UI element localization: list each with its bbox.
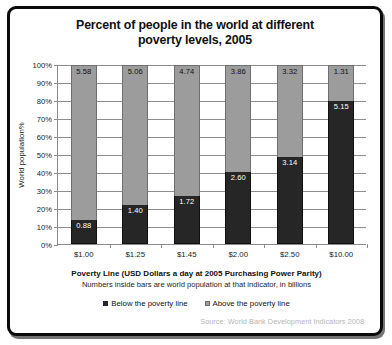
chart-title: Percent of people in the world at differ… [24, 18, 366, 48]
bar-stack[interactable]: 5.580.88 [71, 65, 97, 244]
bar-value-label-above: 3.32 [278, 67, 302, 76]
gridline [58, 209, 366, 210]
bar-segment-above-poverty-line[interactable]: 5.06 [122, 65, 148, 205]
bar-value-label-below: 1.40 [123, 206, 147, 215]
chart-card-frame: Percent of people in the world at differ… [7, 6, 383, 336]
chart-source: Source: World Bank Development Indicator… [200, 317, 364, 326]
x-axis-tick-mark [316, 244, 317, 248]
y-axis-tick-mark [54, 83, 58, 84]
bar-segment-above-poverty-line[interactable]: 3.32 [277, 65, 303, 157]
gridline [58, 137, 366, 138]
gridline [58, 119, 366, 120]
bar-value-label-below: 3.14 [278, 158, 302, 167]
y-axis-tick-label: 40% [37, 169, 52, 178]
y-axis-tick-mark [54, 155, 58, 156]
bar-segment-below-poverty-line[interactable]: 0.88 [71, 220, 97, 244]
chart-title-line-2: poverty levels, 2005 [24, 33, 366, 48]
y-axis-tick-mark [54, 227, 58, 228]
gridline [58, 83, 366, 84]
legend-item[interactable]: Below the poverty line [103, 299, 187, 308]
y-axis-tick-mark [54, 137, 58, 138]
y-axis-tick-label: 0% [41, 241, 52, 250]
bar-stack[interactable]: 4.741.72 [174, 65, 200, 244]
y-axis-tick-mark [54, 209, 58, 210]
y-axis-tick-label: 60% [37, 133, 52, 142]
y-axis-tick-label: 10% [37, 223, 52, 232]
y-axis-tick-mark [54, 101, 58, 102]
gridline [58, 65, 366, 66]
plot-canvas: 0%10%20%30%40%50%60%70%80%90%100% 5.580.… [57, 65, 366, 245]
x-axis-tick-mark [213, 244, 214, 248]
x-axis-tick-label: $2.00 [228, 250, 248, 259]
bar-value-label-below: 1.72 [175, 197, 199, 206]
bar-value-label-above: 1.31 [329, 67, 353, 76]
bar-value-label-above: 3.86 [226, 67, 250, 76]
x-axis-tick-label: $1.00 [74, 250, 94, 259]
bar-value-label-below: 5.15 [329, 102, 353, 111]
y-axis-tick-label: 80% [37, 97, 52, 106]
y-axis-tick-label: 20% [37, 205, 52, 214]
chart-legend: Below the poverty lineAbove the poverty … [24, 299, 369, 308]
chart-title-line-1: Percent of people in the world at differ… [24, 18, 366, 33]
y-axis-tick-label: 30% [37, 187, 52, 196]
bar-value-label-above: 4.74 [175, 67, 199, 76]
bar-segment-above-poverty-line[interactable]: 4.74 [174, 65, 200, 196]
x-axis-tick-label: $1.45 [177, 250, 197, 259]
y-axis-tick-label: 100% [33, 61, 52, 70]
gridline [58, 173, 366, 174]
y-axis-tick-mark [54, 245, 58, 246]
gridline [58, 191, 366, 192]
y-axis-tick-label: 50% [37, 151, 52, 160]
y-axis-tick-label: 90% [37, 79, 52, 88]
gridline [58, 155, 366, 156]
legend-item-label: Above the poverty line [213, 299, 290, 308]
legend-swatch-below-icon [103, 301, 108, 306]
x-axis-tick-mark [264, 244, 265, 248]
bar-segment-below-poverty-line[interactable]: 2.60 [225, 172, 251, 244]
gridline [58, 227, 366, 228]
x-axis-tick-label: $2.50 [280, 250, 300, 259]
x-axis-tick-mark [161, 244, 162, 248]
bar-value-label-above: 5.58 [72, 67, 96, 76]
bar-segment-below-poverty-line[interactable]: 1.40 [122, 205, 148, 244]
bar-stack[interactable]: 3.323.14 [277, 65, 303, 244]
x-axis-title: Poverty Line (USD Dollars a day at 2005 … [24, 269, 369, 278]
plot-area: 0%10%20%30%40%50%60%70%80%90%100% 5.580.… [57, 65, 366, 245]
x-axis-tick-label: $10.00 [329, 250, 353, 259]
y-axis-tick-mark [54, 173, 58, 174]
legend-item[interactable]: Above the poverty line [205, 299, 290, 308]
x-axis-tick-label: $1.25 [125, 250, 145, 259]
y-axis-tick-mark [54, 191, 58, 192]
bar-stack[interactable]: 3.862.60 [225, 65, 251, 244]
x-axis-note: Numbers inside bars are world population… [24, 280, 369, 289]
bar-value-label-below: 2.60 [226, 173, 250, 182]
legend-item-label: Below the poverty line [111, 299, 187, 308]
y-axis-tick-label: 70% [37, 115, 52, 124]
bar-stack[interactable]: 5.061.40 [122, 65, 148, 244]
bar-segment-below-poverty-line[interactable]: 3.14 [277, 157, 303, 244]
y-axis-tick-mark [54, 119, 58, 120]
y-axis-title: World population% [16, 65, 27, 245]
x-axis-tick-mark [110, 244, 111, 248]
bar-segment-above-poverty-line[interactable]: 3.86 [225, 65, 251, 172]
bar-stack[interactable]: 1.315.15 [328, 65, 354, 244]
bar-segment-below-poverty-line[interactable]: 1.72 [174, 196, 200, 244]
y-axis-tick-mark [54, 65, 58, 66]
bar-value-label-above: 5.06 [123, 67, 147, 76]
bar-segment-above-poverty-line[interactable]: 5.58 [71, 65, 97, 220]
bar-segment-above-poverty-line[interactable]: 1.31 [328, 65, 354, 101]
x-axis-tick-mark [367, 244, 368, 248]
legend-swatch-above-icon [205, 301, 210, 306]
gridline [58, 101, 366, 102]
bar-segment-below-poverty-line[interactable]: 5.15 [328, 101, 354, 244]
bar-value-label-below: 0.88 [72, 221, 96, 230]
